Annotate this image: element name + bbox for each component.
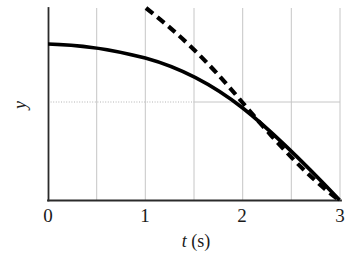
x-axis-title: t (s) <box>148 232 244 250</box>
figure-container: 0 1 2 3 t (s) y <box>0 0 356 262</box>
x-tick-label-0: 0 <box>28 206 68 225</box>
x-tick-label-1: 1 <box>125 206 165 225</box>
y-axis-title: y <box>11 90 29 120</box>
x-tick-label-2: 2 <box>222 206 262 225</box>
x-axis-title-unit: (s) <box>187 231 211 251</box>
x-tick-label-3: 3 <box>320 206 356 225</box>
